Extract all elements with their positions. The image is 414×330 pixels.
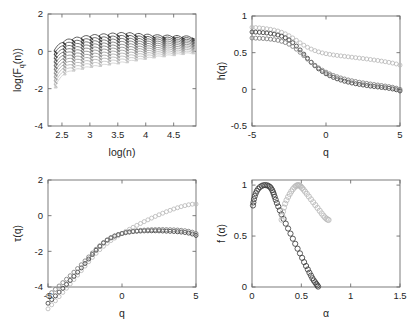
- plot-frame: [252, 180, 400, 287]
- y-axis-label: τ(q): [11, 225, 23, 242]
- x-tick-label: 2.5: [55, 129, 68, 140]
- data-point: [274, 200, 279, 205]
- y-tick-label: 0: [242, 84, 247, 95]
- y-tick-label: 1: [242, 179, 247, 190]
- x-axis-label: α: [323, 307, 329, 319]
- y-tick-label: -2: [35, 246, 43, 257]
- y-axis-label: log(Fq(n)): [11, 48, 26, 92]
- x-tick-label: 3.5: [111, 129, 124, 140]
- data-point: [61, 281, 65, 285]
- x-tick-label: 5: [193, 290, 198, 301]
- x-tick-label: 4.5: [167, 129, 180, 140]
- y-tick-label: 0.5: [234, 230, 247, 241]
- data-point: [288, 231, 293, 236]
- data-point: [46, 301, 50, 305]
- data-point: [309, 60, 313, 64]
- y-tick-label: -0.5: [231, 120, 247, 131]
- y-tick-label: 1: [242, 10, 247, 21]
- x-tick-label: 1.5: [393, 290, 406, 301]
- data-point: [287, 38, 291, 42]
- x-tick-label: 4: [143, 129, 148, 140]
- singularity-spectrum-panel: 00.511.500.51αf (α): [204, 164, 414, 330]
- y-axis-label: f (α): [215, 224, 227, 243]
- data-point: [294, 38, 298, 42]
- data-point: [287, 42, 291, 46]
- spectrum-light: [279, 183, 331, 223]
- y-tick-label: 0.5: [234, 47, 247, 58]
- x-axis-label: q: [323, 146, 329, 158]
- series-mid: [250, 36, 402, 91]
- mfdfa-figure: 2.533.544.5-4-202log(n)log(Fq(n))-505-0.…: [0, 0, 414, 330]
- x-tick-label: 3: [87, 129, 92, 140]
- plot-frame: [48, 14, 196, 126]
- y-tick-label: 0: [38, 46, 43, 57]
- x-tick-label: 0: [249, 290, 254, 301]
- data-point: [286, 226, 291, 231]
- y-tick-label: 0: [38, 210, 43, 221]
- data-point: [290, 236, 295, 241]
- x-axis-label: q: [119, 307, 125, 319]
- x-tick-label: 0: [119, 290, 124, 301]
- y-tick-label: -4: [35, 281, 43, 292]
- series-light: [250, 25, 402, 67]
- data-point: [53, 294, 57, 298]
- generalized-hurst-panel: -505-0.500.51qh(q): [204, 0, 414, 170]
- x-tick-label: -5: [44, 290, 52, 301]
- x-tick-label: 0: [323, 129, 328, 140]
- x-axis-label: log(n): [109, 146, 136, 158]
- y-tick-label: 0: [242, 281, 247, 292]
- data-point: [298, 41, 302, 45]
- y-tick-label: 2: [38, 174, 43, 185]
- data-point: [46, 307, 50, 311]
- x-tick-label: -5: [248, 129, 256, 140]
- fluctuation-curves: [54, 32, 194, 87]
- y-axis-label: h(q): [215, 62, 227, 81]
- y-tick-label: -2: [35, 83, 43, 94]
- y-tick-label: -4: [35, 120, 43, 131]
- x-tick-label: 5: [397, 129, 402, 140]
- data-point: [293, 241, 298, 246]
- data-point: [53, 287, 57, 291]
- data-point: [65, 277, 69, 281]
- x-tick-label: 1: [348, 290, 353, 301]
- y-tick-label: 2: [38, 8, 43, 19]
- data-point: [284, 198, 289, 203]
- mass-exponent-panel: -505-4-202qτ(q): [0, 164, 212, 330]
- x-tick-label: 0.5: [295, 290, 308, 301]
- fluctuation-function-panel: 2.533.544.5-4-202log(n)log(Fq(n)): [0, 0, 212, 170]
- data-point: [283, 221, 288, 226]
